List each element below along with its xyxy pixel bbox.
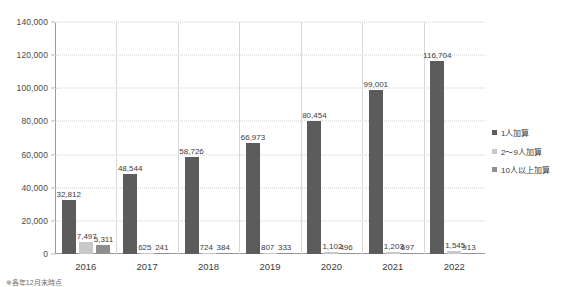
x-axis-tick-label: 2021 (382, 261, 403, 272)
bar-value-label: 80,454 (302, 112, 326, 120)
bar-value-label: 241 (155, 244, 168, 252)
bar-rect (246, 143, 260, 254)
bar-rect (140, 253, 154, 254)
bar-value-label: 58,726 (179, 148, 203, 156)
legend-swatch-icon (492, 130, 497, 135)
bar[interactable]: 32,812 (62, 22, 76, 254)
legend-item[interactable]: 2～9人加算 (492, 146, 550, 157)
bar-group: 116,7041,5459132022 (424, 22, 485, 254)
bar-rect (280, 253, 294, 254)
bar-rect (403, 253, 417, 254)
y-axis-tick-label: 80,000 (21, 116, 48, 126)
bar[interactable]: 724 (202, 22, 216, 254)
bar[interactable]: 496 (341, 22, 355, 254)
bar[interactable]: 5,311 (96, 22, 110, 254)
bar-value-label: 32,812 (56, 191, 80, 199)
bar-groups: 32,8127,4975,311201648,544625241201758,7… (55, 22, 485, 254)
bar-group: 80,4541,1024962020 (301, 22, 362, 254)
bar-rect (202, 253, 216, 254)
y-axis-tick-label: 0 (43, 249, 48, 259)
bar-rect (62, 200, 76, 254)
bar-value-label: 625 (138, 244, 151, 252)
bar[interactable]: 99,001 (369, 22, 383, 254)
bar-value-label: 807 (261, 244, 274, 252)
bar-rect (157, 253, 171, 254)
x-axis-tick-label: 2016 (75, 261, 96, 272)
bar-rect (464, 253, 478, 255)
plot-area: 020,00040,00060,00080,000100,000120,0001… (55, 22, 485, 254)
bar[interactable]: 697 (403, 22, 417, 254)
bar[interactable]: 807 (263, 22, 277, 254)
bar[interactable]: 1,102 (324, 22, 338, 254)
chart-footnote: ※各年12月末時点 (6, 277, 62, 287)
bar-rect (123, 174, 137, 254)
bar-group: 48,5446252412017 (116, 22, 177, 254)
legend-label: 1人加算 (501, 127, 529, 138)
bar-rect (307, 121, 321, 254)
y-axis-tick-label: 60,000 (21, 150, 48, 160)
legend-label: 2～9人加算 (501, 146, 542, 157)
bar[interactable]: 1,203 (386, 22, 400, 254)
legend-swatch-icon (492, 149, 497, 154)
bar[interactable]: 333 (280, 22, 294, 254)
chart-legend: 1人加算2～9人加算10人以上加算 (492, 127, 550, 175)
bar[interactable]: 384 (219, 22, 233, 254)
bar[interactable]: 48,544 (123, 22, 137, 254)
y-axis-tick-label: 20,000 (21, 216, 48, 226)
bar-rect (369, 90, 383, 254)
y-axis-tick-label: 100,000 (17, 83, 48, 93)
bar-rect (324, 252, 338, 254)
x-axis-tick-label: 2022 (444, 261, 465, 272)
bar[interactable]: 913 (464, 22, 478, 254)
legend-item[interactable]: 1人加算 (492, 127, 550, 138)
y-axis-tick-label: 140,000 (17, 17, 48, 27)
bar-value-label: 333 (278, 244, 291, 252)
bar-group: 66,9738073332019 (239, 22, 300, 254)
bar[interactable]: 241 (157, 22, 171, 254)
bar-rect (386, 252, 400, 254)
bar[interactable]: 1,545 (447, 22, 461, 254)
legend-item[interactable]: 10人以上加算 (492, 164, 550, 175)
bar[interactable]: 80,454 (307, 22, 321, 254)
bar-group: 99,0011,2036972021 (362, 22, 423, 254)
bar-value-label: 66,973 (241, 134, 265, 142)
bar-value-label: 724 (200, 244, 213, 252)
bar-rect (447, 251, 461, 254)
legend-label: 10人以上加算 (501, 164, 550, 175)
bar-group: 58,7267243842018 (178, 22, 239, 254)
bar-value-label: 697 (401, 244, 414, 252)
bar-group: 32,8127,4975,3112016 (55, 22, 116, 254)
y-axis-tick-label: 120,000 (17, 50, 48, 60)
bar[interactable]: 116,704 (430, 22, 444, 254)
bar-rect (341, 253, 355, 254)
bar-rect (96, 245, 110, 254)
x-axis-tick-label: 2018 (198, 261, 219, 272)
bar-value-label: 99,001 (364, 81, 388, 89)
bar-rect (430, 61, 444, 254)
x-axis-tick-label: 2017 (137, 261, 158, 272)
bar-rect (185, 157, 199, 254)
x-axis-tick-label: 2020 (321, 261, 342, 272)
y-axis-tick-label: 40,000 (21, 183, 48, 193)
bar-rect (79, 242, 93, 254)
bar[interactable]: 58,726 (185, 22, 199, 254)
bar-value-label: 48,544 (118, 165, 142, 173)
legend-swatch-icon (492, 167, 497, 172)
bar-value-label: 384 (217, 244, 230, 252)
bar-rect (263, 253, 277, 254)
bar-value-label: 496 (339, 244, 352, 252)
bar[interactable]: 66,973 (246, 22, 260, 254)
x-axis-tick-label: 2019 (259, 261, 280, 272)
bar-rect (219, 253, 233, 254)
bar[interactable]: 625 (140, 22, 154, 254)
bar-value-label: 913 (462, 244, 475, 252)
bar-value-label: 5,311 (94, 236, 113, 244)
bar[interactable]: 7,497 (79, 22, 93, 254)
